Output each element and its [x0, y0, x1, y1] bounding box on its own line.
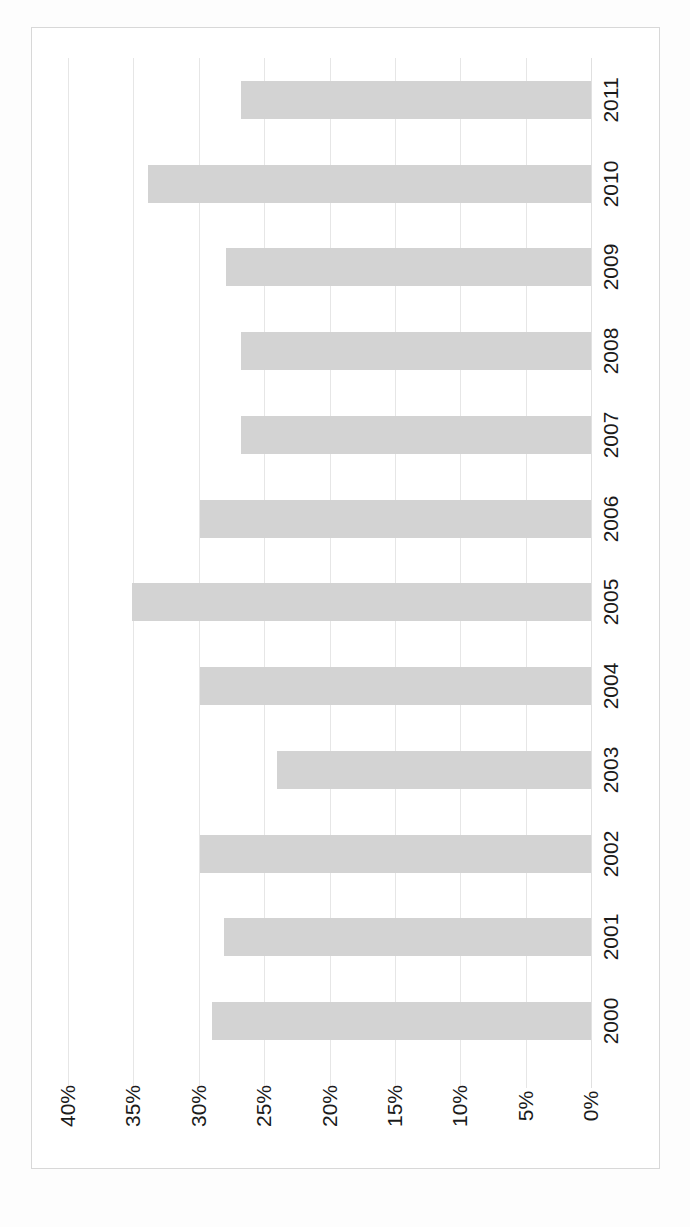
bar-row: [32, 835, 661, 873]
tick-label-35pct: 35%: [122, 1071, 144, 1141]
bar-row: [32, 81, 661, 119]
tick-label-30pct: 30%: [188, 1071, 210, 1141]
bar-2006[interactable]: [200, 500, 591, 538]
bar-row: [32, 332, 661, 370]
year-label-2008: 2008: [600, 311, 622, 391]
bar-2008[interactable]: [241, 332, 591, 370]
year-label-2005: 2005: [600, 562, 622, 642]
year-label-2004: 2004: [600, 646, 622, 726]
tick-label-0pct: 0%: [580, 1071, 602, 1141]
plot-area: 2000200120022003200420052006200720082009…: [32, 28, 661, 1170]
year-label-2003: 2003: [600, 730, 622, 810]
year-label-2006: 2006: [600, 479, 622, 559]
chart-page: 2000200120022003200420052006200720082009…: [0, 0, 690, 1227]
bar-2004[interactable]: [200, 667, 591, 705]
year-label-2001: 2001: [600, 897, 622, 977]
bar-2003[interactable]: [277, 751, 591, 789]
year-label-2009: 2009: [600, 227, 622, 307]
bar-row: [32, 500, 661, 538]
tick-label-15pct: 15%: [384, 1071, 406, 1141]
bar-row: [32, 248, 661, 286]
bar-2011[interactable]: [241, 81, 591, 119]
year-label-2007: 2007: [600, 395, 622, 475]
bar-row: [32, 751, 661, 789]
bar-2007[interactable]: [241, 416, 591, 454]
bar-row: [32, 918, 661, 956]
bar-2010[interactable]: [148, 165, 591, 203]
bar-2002[interactable]: [200, 835, 591, 873]
bar-2000[interactable]: [212, 1002, 591, 1040]
bar-row: [32, 583, 661, 621]
year-label-2011: 2011: [600, 60, 622, 140]
tick-label-10pct: 10%: [449, 1071, 471, 1141]
bar-row: [32, 667, 661, 705]
tick-label-5pct: 5%: [515, 1071, 537, 1141]
bar-2009[interactable]: [226, 248, 591, 286]
bar-2005[interactable]: [132, 583, 591, 621]
bar-row: [32, 165, 661, 203]
year-label-2000: 2000: [600, 981, 622, 1061]
tick-label-40pct: 40%: [57, 1071, 79, 1141]
year-label-2010: 2010: [600, 144, 622, 224]
bars-group: [32, 28, 661, 1068]
chart-frame: 2000200120022003200420052006200720082009…: [31, 27, 660, 1169]
bar-row: [32, 1002, 661, 1040]
bar-2001[interactable]: [224, 918, 591, 956]
year-label-2002: 2002: [600, 814, 622, 894]
bar-row: [32, 416, 661, 454]
tick-label-25pct: 25%: [253, 1071, 275, 1141]
tick-label-20pct: 20%: [319, 1071, 341, 1141]
